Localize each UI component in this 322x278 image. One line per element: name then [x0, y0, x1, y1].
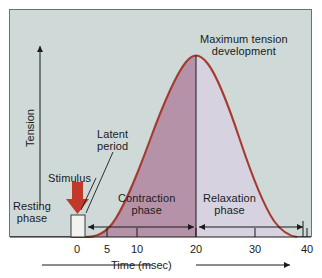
x-axis-label: Time (msec)	[111, 259, 172, 271]
relaxation-phase-label: Relaxation phase	[203, 192, 256, 216]
resting-line1: Resting	[13, 200, 51, 212]
resting-line2: phase	[13, 212, 51, 224]
contraction-line2: phase	[118, 204, 175, 216]
latent-line2: period	[97, 140, 128, 152]
x-tick-label-5: 5	[95, 243, 119, 255]
max-tension-line1: Maximum tension	[200, 33, 288, 45]
stimulus-box	[71, 215, 85, 237]
stimulus-arrow-icon	[66, 182, 89, 214]
stimulus-label: Stimulus	[48, 172, 91, 184]
max-tension-line2: development	[200, 45, 288, 57]
x-tick-label-10: 10	[125, 243, 149, 255]
max-tension-label: Maximum tension development	[200, 33, 288, 57]
x-tick-label-30: 30	[243, 243, 267, 255]
contraction-phase-label: Contraction phase	[118, 192, 175, 216]
x-tick-label-40: 40	[295, 243, 319, 255]
x-tick-label-20: 20	[184, 243, 208, 255]
relaxation-line1: Relaxation	[203, 192, 256, 204]
resting-phase-label: Resting phase	[13, 200, 51, 224]
muscle-twitch-figure: Maximum tension development Latent perio…	[0, 0, 322, 278]
latent-period-label: Latent period	[97, 128, 128, 152]
relaxation-line2: phase	[203, 204, 256, 216]
contraction-line1: Contraction	[118, 192, 175, 204]
y-axis-label: Tension	[24, 88, 36, 168]
x-tick-label-0: 0	[65, 243, 89, 255]
latent-line1: Latent	[97, 128, 128, 140]
